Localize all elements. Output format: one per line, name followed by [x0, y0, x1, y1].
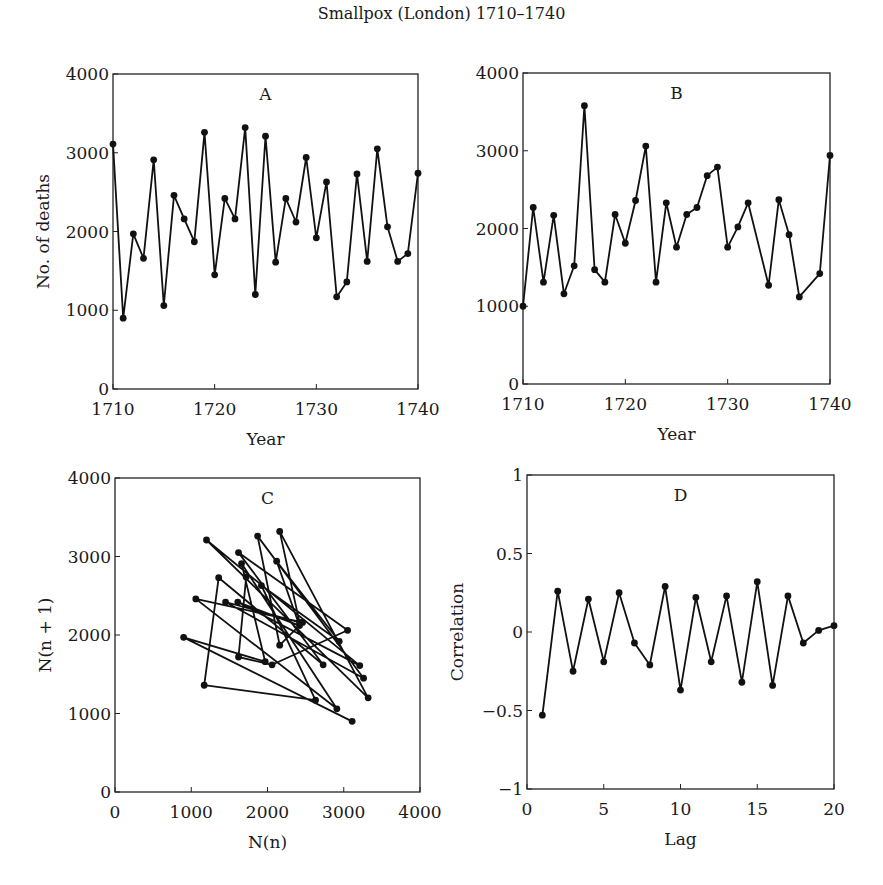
data-point: [242, 124, 249, 131]
data-point: [769, 682, 776, 689]
x-tick-label: 1740: [396, 399, 439, 419]
data-point: [677, 687, 684, 694]
data-point: [262, 658, 269, 665]
data-point: [663, 199, 670, 206]
data-point: [662, 583, 669, 590]
data-point: [745, 199, 752, 206]
panel-c: 0100020003000400001000200030004000CN(n)N…: [35, 468, 442, 852]
data-point: [323, 178, 330, 185]
data-point: [765, 282, 772, 289]
data-point: [130, 230, 137, 237]
data-point: [539, 712, 546, 719]
y-tick-label: 3000: [476, 141, 519, 161]
plot-frame: [523, 73, 830, 384]
data-point: [415, 170, 422, 177]
data-point: [520, 303, 527, 310]
data-point: [215, 574, 222, 581]
data-point: [272, 259, 279, 266]
data-point: [356, 662, 363, 669]
y-tick-label: 1000: [66, 300, 109, 320]
data-point: [211, 271, 218, 278]
x-tick-label: 15: [746, 799, 768, 819]
data-point: [831, 622, 838, 629]
data-point: [601, 279, 608, 286]
data-point: [591, 266, 598, 273]
data-point: [150, 156, 157, 163]
data-point: [632, 197, 639, 204]
data-point: [320, 661, 327, 668]
x-tick-label: 1730: [295, 399, 338, 419]
data-point: [313, 234, 320, 241]
data-point: [554, 588, 561, 595]
x-tick-label: 3000: [322, 802, 365, 822]
panel-b: 171017201730174001000200030004000BYear: [476, 63, 852, 444]
data-point: [739, 679, 746, 686]
y-tick-label: 0: [508, 374, 519, 394]
y-tick-label: 3000: [68, 547, 111, 567]
y-tick-label: 3000: [66, 143, 109, 163]
panel-label: A: [258, 84, 272, 104]
plots-canvas: 171017201730174001000200030004000AYearNo…: [0, 0, 883, 885]
data-point: [616, 589, 623, 596]
y-tick-label: 4000: [476, 63, 519, 83]
data-point: [561, 290, 568, 297]
panel-label: D: [674, 485, 688, 505]
panel-label: C: [261, 488, 274, 508]
data-point: [612, 211, 619, 218]
y-tick-label: 2000: [68, 625, 111, 645]
data-point: [404, 250, 411, 257]
data-point: [171, 192, 178, 199]
data-point: [642, 143, 649, 150]
x-tick-label: 0: [522, 799, 533, 819]
data-point: [724, 244, 731, 251]
data-point: [600, 658, 607, 665]
data-point: [360, 675, 367, 682]
y-axis-label: N(n + 1): [35, 598, 55, 673]
x-axis-label: N(n): [248, 832, 287, 852]
data-point: [581, 102, 588, 109]
data-point: [238, 560, 245, 567]
data-point: [333, 705, 340, 712]
data-point: [232, 216, 239, 223]
y-tick-label: 1000: [476, 296, 519, 316]
data-point: [293, 219, 300, 226]
data-point: [384, 223, 391, 230]
figure: Smallpox (London) 1710–1740 171017201730…: [0, 0, 883, 885]
data-point: [673, 244, 680, 251]
x-tick-label: 1710: [91, 399, 134, 419]
data-point: [786, 231, 793, 238]
data-point: [180, 634, 187, 641]
data-point: [571, 262, 578, 269]
data-point: [344, 627, 351, 634]
x-tick-label: 0: [110, 802, 121, 822]
data-point: [282, 195, 289, 202]
data-point: [296, 622, 303, 629]
y-tick-label: 1: [512, 465, 523, 485]
data-point: [252, 291, 259, 298]
y-axis-label: Correlation: [447, 583, 467, 682]
data-point: [646, 662, 653, 669]
x-tick-label: 20: [823, 799, 845, 819]
data-point: [708, 658, 715, 665]
data-point: [735, 224, 742, 231]
data-point: [815, 627, 822, 634]
data-point: [354, 171, 361, 178]
data-point: [160, 302, 167, 309]
data-point: [364, 258, 371, 265]
data-point: [816, 270, 823, 277]
x-axis-label: Lag: [664, 829, 696, 849]
data-point: [254, 533, 261, 540]
data-point: [683, 211, 690, 218]
data-point: [653, 279, 660, 286]
data-point: [723, 592, 730, 599]
x-tick-label: 1000: [170, 802, 213, 822]
data-point: [754, 578, 761, 585]
panel-d: 05101520−1−0.500.51DLagCorrelation: [447, 465, 845, 849]
x-tick-label: 1710: [501, 394, 544, 414]
data-point: [365, 694, 372, 701]
plot-frame: [527, 475, 834, 789]
data-point: [221, 195, 228, 202]
data-point: [181, 216, 188, 223]
data-point: [827, 152, 834, 159]
x-tick-label: 1720: [193, 399, 236, 419]
